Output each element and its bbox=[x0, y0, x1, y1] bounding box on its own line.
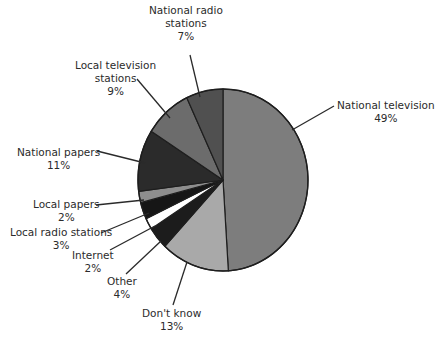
leader-national-papers bbox=[97, 151, 145, 163]
label-name: Don't know bbox=[142, 307, 201, 320]
label-name: Local radio stations bbox=[10, 226, 112, 239]
leader-internet bbox=[110, 226, 155, 250]
leader-national-radio bbox=[190, 55, 200, 97]
pie-slice-national-television bbox=[223, 89, 308, 271]
label-name-2: stations bbox=[149, 17, 223, 30]
label-name-2: stations bbox=[75, 72, 156, 85]
leader-dont-know bbox=[173, 262, 187, 305]
label-pct: 2% bbox=[33, 211, 100, 224]
label-local-radio: Local radio stations 3% bbox=[10, 226, 112, 252]
label-name: Other bbox=[107, 275, 137, 288]
label-pct: 2% bbox=[72, 262, 114, 275]
label-name: National papers bbox=[17, 146, 100, 159]
label-other: Other 4% bbox=[107, 275, 137, 301]
label-pct: 4% bbox=[107, 288, 137, 301]
label-pct: 7% bbox=[149, 30, 223, 43]
label-pct: 11% bbox=[17, 159, 100, 172]
label-pct: 3% bbox=[10, 239, 112, 252]
label-national-papers: National papers 11% bbox=[17, 146, 100, 172]
leader-national-television bbox=[292, 106, 334, 130]
label-pct: 9% bbox=[75, 85, 156, 98]
label-pct: 49% bbox=[337, 112, 435, 125]
leader-other bbox=[126, 241, 161, 274]
label-national-television: National television 49% bbox=[337, 99, 435, 125]
label-dont-know: Don't know 13% bbox=[142, 307, 201, 333]
label-internet: Internet 2% bbox=[72, 249, 114, 275]
leader-local-papers bbox=[96, 200, 144, 205]
label-name: National radio bbox=[149, 4, 223, 17]
label-name: National television bbox=[337, 99, 435, 112]
label-local-papers: Local papers 2% bbox=[33, 198, 100, 224]
label-local-television: Local television stations 9% bbox=[75, 59, 156, 98]
label-name: Local papers bbox=[33, 198, 100, 211]
label-national-radio: National radio stations 7% bbox=[149, 4, 223, 43]
label-pct: 13% bbox=[142, 320, 201, 333]
pie-slices bbox=[138, 89, 308, 271]
label-name: Local television bbox=[75, 59, 156, 72]
